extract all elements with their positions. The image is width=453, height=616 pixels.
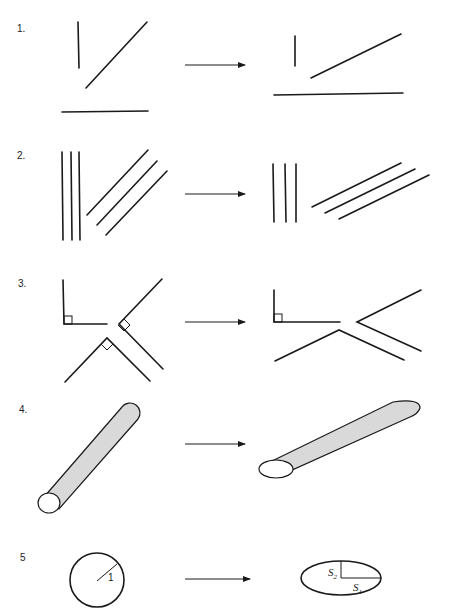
row-1: 1. [17, 22, 403, 112]
row-5-after-ellipse: S2 S1 [301, 561, 381, 596]
right-angle-axis [274, 290, 340, 322]
row-3-label: 3. [18, 278, 26, 289]
row-3: 3. [18, 278, 421, 382]
vertical-line [273, 164, 274, 222]
cylinder-end-cap [38, 493, 60, 513]
row-2: 2. [17, 150, 429, 240]
s2-label: S2 [328, 566, 338, 581]
cylinder-body [44, 403, 140, 509]
radius-label: 1 [108, 572, 114, 583]
row-3-after [274, 290, 421, 361]
unit-circle [70, 553, 124, 607]
diagonal-line [97, 161, 157, 225]
right-angle-marker [64, 316, 72, 324]
obtuse-angle-left [357, 290, 421, 351]
horizontal-segment [274, 93, 403, 95]
row-5-before-circle: 1 [70, 553, 124, 607]
diagonal-line [312, 163, 401, 207]
diagonal-segment [86, 22, 147, 88]
row-4: 4. [19, 401, 420, 513]
right-angle-marker [274, 314, 282, 322]
right-angle-up-opening [65, 338, 150, 382]
vertical-line [71, 152, 72, 240]
vertical-line [79, 152, 80, 240]
right-angle-axis [63, 280, 107, 324]
horizontal-segment [62, 111, 148, 112]
row-3-before [63, 279, 163, 382]
row-1-after [274, 34, 403, 95]
diagonal-segment [311, 34, 401, 78]
row-2-before [62, 150, 167, 240]
right-angle-marker [101, 344, 113, 350]
diagonal-line [87, 150, 148, 215]
diagonal-line [325, 169, 415, 213]
cylinder-end-cap [259, 460, 293, 478]
row-2-after [273, 163, 429, 222]
row-5-label: 5 [20, 552, 26, 563]
transformation-diagram: 1. 2. [0, 0, 453, 616]
row-4-label: 4. [19, 404, 27, 415]
row-4-after-cylinder [259, 401, 420, 478]
vertical-line [62, 152, 63, 240]
row-1-label: 1. [17, 23, 25, 34]
diagonal-line [106, 171, 167, 235]
vertical-segment [78, 22, 79, 68]
radius-line [97, 564, 117, 581]
cylinder-body [270, 401, 420, 470]
vertical-line [285, 164, 286, 222]
row-2-label: 2. [17, 150, 25, 161]
row-4-before-cylinder [38, 403, 140, 513]
diagonal-line [339, 175, 429, 219]
row-1-before [62, 22, 148, 112]
row-5: 5 1 S2 S1 [20, 552, 381, 607]
